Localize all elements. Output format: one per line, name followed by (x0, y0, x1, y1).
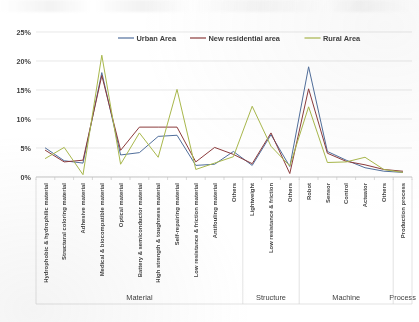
x-axis-group-label: Structure (256, 293, 286, 302)
x-axis-category-label: Optical material (118, 183, 124, 228)
legend-label: Urban Area (137, 34, 177, 43)
x-axis-category-label: Structural coloring material (61, 183, 67, 260)
x-axis-category-label: Production process (400, 182, 406, 238)
series-line-rural-area (45, 55, 402, 174)
y-axis-tick-label: 5% (21, 144, 32, 153)
x-axis-category-label: Lightweight (249, 183, 255, 216)
x-axis-category-label: Others (381, 182, 387, 202)
x-axis-category-label: Robot (306, 183, 312, 200)
x-axis-category-label: Low resistance & friction (268, 183, 274, 253)
x-axis-category-label: Actuator (362, 182, 368, 207)
x-axis-category-label: Medical & biocompatible material (99, 183, 105, 277)
x-axis-category-label: Adhesive material (80, 183, 86, 234)
y-axis-tick-label: 25% (17, 28, 32, 37)
y-axis-tick-label: 0% (21, 173, 32, 182)
x-axis-category-label: Others (231, 182, 237, 202)
x-axis-category-label: Battery & semiconductor material (137, 183, 143, 278)
y-axis-tick-label: 10% (17, 115, 32, 124)
y-axis-tick-label: 15% (17, 86, 32, 95)
x-axis-category-label: Self-repairing material (174, 183, 180, 246)
chart-container: 0%5%10%15%20%25%Urban AreaNew residentia… (0, 0, 419, 322)
x-axis-category-label: Hydrophobic & hydrophilic material (43, 183, 49, 283)
x-axis-category-label: Sensor (325, 182, 331, 203)
x-axis-category-label: Antifouling material (212, 183, 218, 239)
line-chart: 0%5%10%15%20%25%Urban AreaNew residentia… (0, 0, 419, 322)
series-line-urban-area (45, 67, 402, 173)
x-axis-category-label: Low resistance & friction material (193, 183, 199, 278)
legend-label: Rural Area (323, 34, 361, 43)
x-axis-group-label: Machine (332, 293, 360, 302)
x-axis-category-label: High strength & toughness material (155, 183, 161, 283)
x-axis-category-label: Control (343, 183, 349, 204)
x-axis-group-label: Material (126, 293, 153, 302)
y-axis-tick-label: 20% (17, 57, 32, 66)
x-axis-category-label: Others (287, 182, 293, 202)
legend-label: New residential area (209, 34, 281, 43)
